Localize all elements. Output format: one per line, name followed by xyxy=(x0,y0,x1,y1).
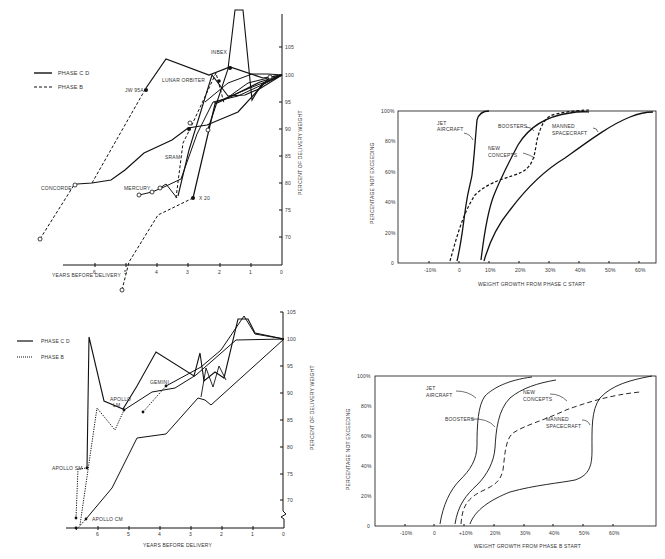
series-gemini-phase-b xyxy=(143,386,166,412)
svg-text:105: 105 xyxy=(287,309,296,315)
svg-text:40%: 40% xyxy=(549,530,560,536)
chart-top-left xyxy=(34,10,282,292)
series-jw95a-phase-b xyxy=(92,88,146,183)
annotation-apollo-cm: APOLLO CM xyxy=(92,516,123,522)
svg-text:30%: 30% xyxy=(520,530,531,536)
annotation-sram: SRAM xyxy=(165,154,180,160)
svg-text:6: 6 xyxy=(96,531,99,537)
leader-jet xyxy=(456,391,476,398)
svg-text:50%: 50% xyxy=(579,530,590,536)
annotation-manned-2: SPACECRAFT xyxy=(546,423,581,429)
y-axis-label: PERCENT OF DELIVERY WEIGHT xyxy=(297,110,303,195)
markers-open xyxy=(38,75,272,292)
annotation-jet-2: AIRCRAFT xyxy=(426,392,453,398)
svg-text:20%: 20% xyxy=(490,530,501,536)
series-inbex xyxy=(208,10,282,129)
annotation-new-1: NEW xyxy=(523,389,535,395)
legend-phase-cd-label: PHASE C D xyxy=(41,338,70,344)
svg-text:70: 70 xyxy=(285,234,291,240)
svg-text:75: 75 xyxy=(285,207,291,213)
y-axis-label: PERCENT OF DELIVERY WEIGHT xyxy=(309,365,315,450)
annotation-boosters: BOOSTERS xyxy=(445,416,475,422)
svg-text:0: 0 xyxy=(282,531,285,537)
svg-text:105: 105 xyxy=(285,44,294,50)
series-apollo-sm-phase-b xyxy=(76,468,87,518)
plot-frame xyxy=(375,376,656,526)
series-sram xyxy=(178,75,282,196)
svg-text:80: 80 xyxy=(285,180,291,186)
svg-text:-10%: -10% xyxy=(424,267,437,273)
svg-text:80%: 80% xyxy=(385,138,396,144)
x-tick-labels: -10% 0 +10% 20% 30% 40% 50% 60% xyxy=(400,530,620,536)
svg-text:20%: 20% xyxy=(361,493,372,499)
svg-text:40%: 40% xyxy=(575,267,586,273)
svg-text:50%: 50% xyxy=(605,267,616,273)
svg-text:70: 70 xyxy=(287,497,293,503)
svg-text:100%: 100% xyxy=(381,108,395,114)
legend-phase-b-label: PHASE B xyxy=(58,84,83,90)
leader-new-concepts xyxy=(550,394,567,401)
svg-text:4: 4 xyxy=(155,269,158,275)
svg-text:2: 2 xyxy=(220,531,223,537)
annotation-gemini: GEMINI xyxy=(150,379,169,385)
leader-manned xyxy=(582,420,590,425)
svg-text:5: 5 xyxy=(127,531,130,537)
series-manned-spacecraft xyxy=(470,376,652,524)
leader-boosters xyxy=(471,419,495,427)
annotation-manned-1: MANNED xyxy=(546,416,569,422)
svg-text:3: 3 xyxy=(189,531,192,537)
svg-text:80%: 80% xyxy=(361,403,372,409)
x-axis-label: YEARS BEFORE DELIVERY xyxy=(52,272,122,278)
svg-text:1: 1 xyxy=(251,531,254,537)
svg-text:0: 0 xyxy=(458,267,461,273)
svg-text:90: 90 xyxy=(285,126,291,132)
series-apollo-cm xyxy=(86,339,284,519)
annotation-manned-1: MANNED xyxy=(552,123,575,129)
chart-bottom-left xyxy=(17,312,286,530)
legend-phase-b-label: PHASE B xyxy=(41,354,65,360)
annotation-mercury: MERCURY xyxy=(124,185,151,191)
svg-text:0: 0 xyxy=(367,523,370,529)
leader-new-concepts xyxy=(523,153,535,158)
series-jet-aircraft xyxy=(440,377,532,524)
svg-text:95: 95 xyxy=(285,99,291,105)
x-tick-labels: 6 5 4 3 2 1 0 xyxy=(96,531,285,537)
svg-text:60%: 60% xyxy=(635,267,646,273)
x-axis-label: YEARS BEFORE DELIVERY xyxy=(143,542,213,548)
annotation-jet-1: JET xyxy=(426,385,436,391)
annotation-new-2: CONCEPTS xyxy=(523,396,553,402)
svg-text:+10%: +10% xyxy=(459,530,473,536)
annotation-new-2: CONCEPTS xyxy=(488,152,518,158)
series-mercury xyxy=(139,75,282,195)
svg-text:-10%: -10% xyxy=(400,530,413,536)
annotation-boosters: BOOSTERS xyxy=(498,123,528,129)
svg-text:20%: 20% xyxy=(515,267,526,273)
svg-text:95: 95 xyxy=(287,363,293,369)
y-tick-labels: 100% 80% 60% 40% 20% 0 xyxy=(381,108,396,266)
series-new-concepts xyxy=(461,392,640,524)
svg-text:80: 80 xyxy=(287,444,293,450)
svg-text:5: 5 xyxy=(124,269,127,275)
series-mercury-loop xyxy=(160,184,177,198)
x-axis-label: WEIGHT GROWTH FROM PHASE B START xyxy=(474,543,581,549)
svg-text:20%: 20% xyxy=(385,230,396,236)
series-concorde-phase-b xyxy=(40,185,74,239)
svg-text:0: 0 xyxy=(433,530,436,536)
markers-filled xyxy=(75,385,168,530)
annotation-inbex: INBEX xyxy=(211,49,227,55)
leader-manned xyxy=(593,128,598,132)
svg-text:60%: 60% xyxy=(361,433,372,439)
annotation-apollo-lm-2: LM xyxy=(113,402,120,408)
svg-text:60%: 60% xyxy=(385,169,396,175)
svg-text:75: 75 xyxy=(287,471,293,477)
x-axis-label: WEIGHT GROWTH FROM PHASE C START xyxy=(478,281,585,287)
annotation-new-1: NEW xyxy=(488,145,500,151)
y-tick-labels: 105 100 95 90 85 80 75 70 xyxy=(287,309,296,503)
svg-text:40%: 40% xyxy=(361,463,372,469)
svg-text:85: 85 xyxy=(287,417,293,423)
y-tick-labels: 100% 80% 60% 40% 20% 0 xyxy=(357,373,372,529)
svg-text:4: 4 xyxy=(158,531,161,537)
annotation-jet-2: AIRCRAFT xyxy=(437,126,464,132)
svg-text:1: 1 xyxy=(249,269,252,275)
annotation-x20: X 20 xyxy=(199,195,210,201)
